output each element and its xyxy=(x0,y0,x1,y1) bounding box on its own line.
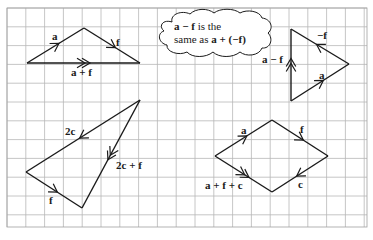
label-vector-f: f xyxy=(116,37,120,48)
note-line-1: a − f is the xyxy=(174,20,221,33)
label-vector-a-plus-f: a + f xyxy=(71,67,92,78)
label-vector-a-minus-f: a − f xyxy=(262,54,283,65)
label-vector-2c: 2c xyxy=(65,126,75,137)
label-vector-a-2: a xyxy=(319,70,325,81)
label-vector-2c-plus-f: 2c + f xyxy=(116,160,142,171)
label-vector-a-3: a xyxy=(241,125,247,136)
label-vector-c: c xyxy=(298,179,303,190)
note-expr-a-minus-f: a − f xyxy=(174,20,195,32)
note-text-is-the: is the xyxy=(195,20,221,32)
label-vector-a-plus-f-plus-c: a + f + c xyxy=(205,180,243,191)
note-line-2: same as a + (−f) xyxy=(174,33,246,46)
note-text-same-as: same as xyxy=(174,33,211,45)
label-vector-f-2: f xyxy=(49,195,53,206)
label-vector-neg-f: −f xyxy=(317,30,327,41)
label-vector-a: a xyxy=(52,31,58,42)
label-vector-f-3: f xyxy=(300,124,304,135)
note-expr-a-plus-neg-f: a + (−f) xyxy=(211,33,246,45)
vector-2c-f xyxy=(82,100,140,208)
